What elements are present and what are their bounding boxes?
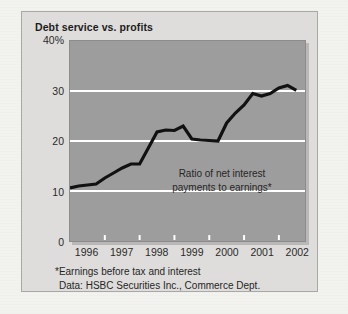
y-axis-tick-label: 20 [52,135,64,147]
plot-annotation-line-2: payments to earnings* [142,181,302,195]
chart-canvas [70,41,305,241]
y-axis: 010203040% [22,40,67,242]
footnote-earnings-note: *Earnings before tax and interest [55,266,201,277]
chart-panel: Debt service vs. profits 010203040% 1996… [21,11,318,292]
plot-area [69,40,306,242]
y-axis-tick-label: 0 [58,236,64,248]
x-axis-tick-label: 2002 [286,246,309,258]
x-axis-tick-label: 1996 [75,246,98,258]
y-axis-tick-label: 30 [52,85,64,97]
x-axis-tick-label: 2001 [250,246,273,258]
chart-title: Debt service vs. profits [35,21,153,33]
x-axis-tick-label: 1997 [110,246,133,258]
y-axis-tick-label: 10 [52,186,64,198]
plot-annotation-line-1: Ratio of net interest [142,167,302,181]
footnote-data-source: Data: HSBC Securities Inc., Commerce Dep… [59,280,260,291]
y-axis-tick-label: 40% [43,34,64,46]
x-axis: 1996199719981999200020012002 [69,244,306,260]
x-axis-tick-label: 1999 [180,246,203,258]
x-axis-tickmarks [105,235,279,240]
x-axis-tick-label: 1998 [145,246,168,258]
x-axis-tick-label: 2000 [215,246,238,258]
